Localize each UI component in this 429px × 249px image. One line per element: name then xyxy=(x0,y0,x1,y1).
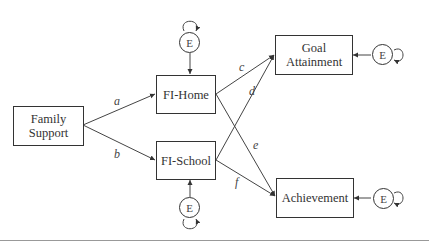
node-achievement: Achievement xyxy=(276,178,354,218)
path-label-e: e xyxy=(253,138,258,153)
path-c-arrow xyxy=(216,55,274,94)
bottom-rule-divider xyxy=(0,240,429,241)
path-f-arrow xyxy=(216,160,275,196)
node-achievement-label: Achievement xyxy=(282,191,349,205)
path-label-c: c xyxy=(239,60,244,75)
node-family-support-line1: Family xyxy=(31,112,66,126)
node-goal-attainment-line2: Attainment xyxy=(286,55,342,69)
error-term-home-label: E xyxy=(186,37,193,49)
variance-loop-achievement-icon xyxy=(394,192,403,204)
variance-loop-school-icon xyxy=(183,219,197,229)
node-fi-school-label: FI-School xyxy=(161,154,211,168)
error-term-achievement: E xyxy=(373,188,394,209)
error-term-achievement-label: E xyxy=(380,193,387,205)
variance-loop-goal-icon xyxy=(394,49,403,61)
error-term-goal: E xyxy=(372,44,393,65)
path-label-f: f xyxy=(235,175,238,190)
error-term-school-label: E xyxy=(186,202,193,214)
node-goal-attainment-line1: Goal xyxy=(302,41,326,55)
path-label-d: d xyxy=(249,84,255,99)
node-fi-home-label: FI-Home xyxy=(163,88,209,102)
node-fi-home: FI-Home xyxy=(156,75,216,114)
node-family-support: Family Support xyxy=(13,106,84,146)
node-goal-attainment: Goal Attainment xyxy=(275,35,353,75)
error-term-home: E xyxy=(179,32,200,53)
node-family-support-line2: Support xyxy=(29,126,69,140)
path-label-b: b xyxy=(114,147,120,162)
variance-loop-home-icon xyxy=(183,21,197,31)
node-fi-school: FI-School xyxy=(156,141,216,180)
error-term-school: E xyxy=(179,197,200,218)
path-label-a: a xyxy=(114,94,120,109)
error-term-goal-label: E xyxy=(379,49,386,61)
